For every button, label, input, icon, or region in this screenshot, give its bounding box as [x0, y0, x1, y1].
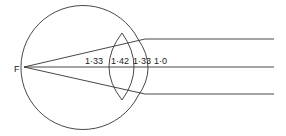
lower-ray	[24, 67, 274, 94]
cornea-outline	[138, 39, 148, 96]
eye-optics-diagram: F 1·33 1·42 1·33 1·0	[0, 0, 286, 136]
index-posterior-label: 1·33	[133, 56, 151, 66]
index-air-label: 1·0	[154, 56, 167, 66]
index-lens-label: 1·42	[111, 56, 129, 66]
focal-point-label: F	[14, 64, 20, 74]
index-aqueous-label: 1·33	[85, 56, 103, 66]
eyeball-outline	[21, 5, 138, 129]
lens-outline	[109, 33, 134, 100]
